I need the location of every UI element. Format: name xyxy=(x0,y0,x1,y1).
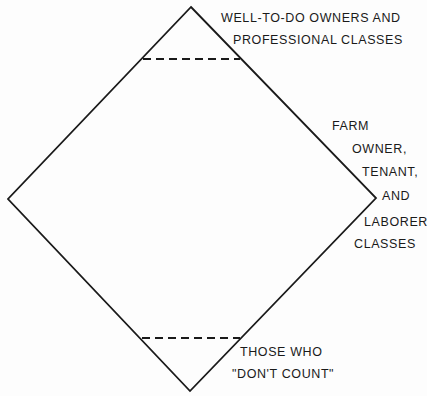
middle-label-line4: AND xyxy=(382,190,410,203)
top-label-line1: WELL-TO-DO OWNERS AND xyxy=(221,12,401,25)
middle-label-line2: OWNER, xyxy=(352,143,407,156)
bottom-label-line1: THOSE WHO xyxy=(240,346,322,359)
middle-label-line6: CLASSES xyxy=(354,238,416,251)
middle-label-line1: FARM xyxy=(332,120,369,133)
diamond-outline xyxy=(8,7,376,391)
bottom-label-line2: "DON'T COUNT" xyxy=(232,368,334,381)
middle-label-line3: TENANT, xyxy=(362,166,418,179)
top-label-line2: PROFESSIONAL CLASSES xyxy=(233,34,403,47)
middle-label-line5: LABORER xyxy=(364,216,428,229)
